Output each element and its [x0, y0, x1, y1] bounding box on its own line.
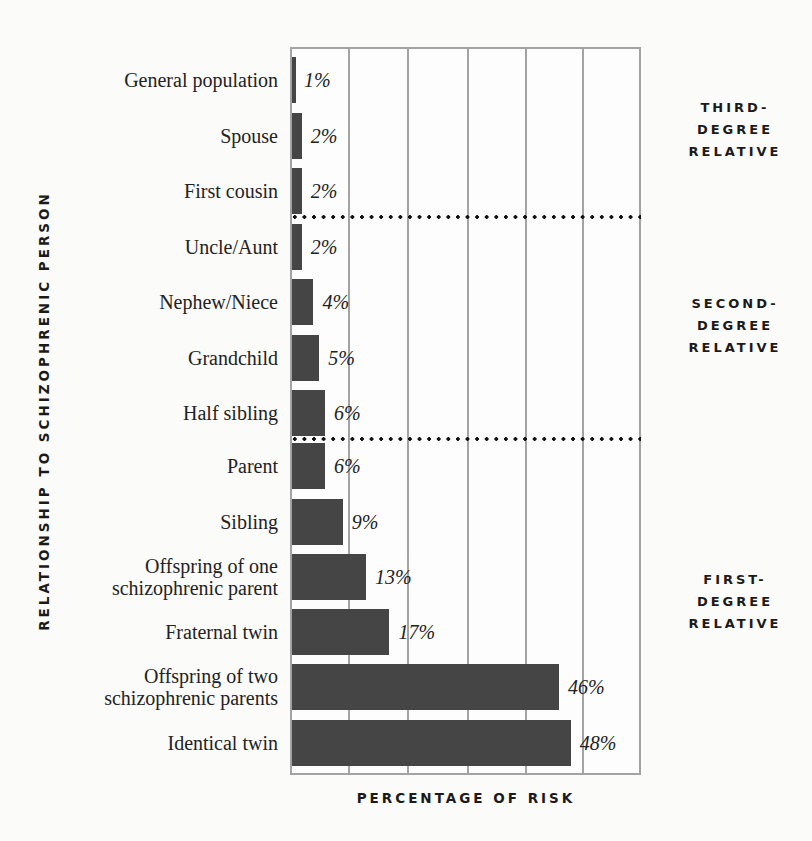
group-label-third-degree: THIRD- DEGREE RELATIVE — [670, 97, 800, 163]
value-label: 13% — [375, 554, 412, 600]
category-label: Parent — [38, 443, 278, 489]
value-label: 1% — [304, 57, 331, 103]
group-label-line: DEGREE — [670, 119, 800, 141]
bar — [292, 224, 302, 270]
group-label-line: RELATIVE — [670, 613, 800, 635]
category-label: Offspring of twoschizophrenic parents — [38, 664, 278, 710]
category-label: Offspring of oneschizophrenic parent — [38, 554, 278, 600]
category-label-line: Offspring of two — [38, 665, 278, 687]
category-label-line: Parent — [38, 455, 278, 477]
group-label-line: DEGREE — [670, 591, 800, 613]
divider-second-first — [290, 437, 641, 441]
group-label-line: DEGREE — [670, 315, 800, 337]
group-label-line: THIRD- — [670, 97, 800, 119]
value-label: 2% — [311, 168, 338, 214]
category-label-line: Half sibling — [38, 402, 278, 424]
divider-third-second — [290, 215, 641, 219]
bar — [292, 720, 571, 766]
bar — [292, 168, 302, 214]
category-label: Nephew/Niece — [38, 279, 278, 325]
group-label-second-degree: SECOND- DEGREE RELATIVE — [670, 293, 800, 359]
group-label-first-degree: FIRST- DEGREE RELATIVE — [670, 569, 800, 635]
bar — [292, 57, 296, 103]
category-label: Spouse — [38, 113, 278, 159]
category-label-line: Uncle/Aunt — [38, 236, 278, 258]
bar — [292, 390, 325, 436]
category-label-line: schizophrenic parent — [38, 577, 278, 599]
value-label: 6% — [334, 390, 361, 436]
category-label: Half sibling — [38, 390, 278, 436]
value-label: 48% — [580, 720, 617, 766]
value-label: 46% — [568, 664, 605, 710]
value-label: 17% — [398, 609, 435, 655]
value-label: 6% — [334, 443, 361, 489]
category-label: Sibling — [38, 499, 278, 545]
category-label-line: Fraternal twin — [38, 621, 278, 643]
category-label-line: Spouse — [38, 125, 278, 147]
bar — [292, 554, 366, 600]
category-label: Uncle/Aunt — [38, 224, 278, 270]
group-label-line: RELATIVE — [670, 141, 800, 163]
value-label: 9% — [352, 499, 379, 545]
bar — [292, 499, 343, 545]
category-label: General population — [38, 57, 278, 103]
value-label: 2% — [311, 224, 338, 270]
category-label: First cousin — [38, 168, 278, 214]
category-label-line: General population — [38, 69, 278, 91]
group-label-line: SECOND- — [670, 293, 800, 315]
bar — [292, 113, 302, 159]
category-label: Grandchild — [38, 335, 278, 381]
category-label-line: First cousin — [38, 180, 278, 202]
y-axis-title: RELATIONSHIP TO SCHIZOPHRENIC PERSON — [36, 191, 52, 631]
bar — [292, 279, 313, 325]
value-label: 2% — [311, 113, 338, 159]
bar — [292, 335, 319, 381]
category-label-line: Nephew/Niece — [38, 291, 278, 313]
category-label-line: Sibling — [38, 511, 278, 533]
category-label-line: Offspring of one — [38, 555, 278, 577]
category-label-line: schizophrenic parents — [38, 687, 278, 709]
category-label: Identical twin — [38, 720, 278, 766]
value-label: 5% — [328, 335, 355, 381]
bar — [292, 609, 389, 655]
category-label: Fraternal twin — [38, 609, 278, 655]
x-axis-title: PERCENTAGE OF RISK — [334, 790, 598, 806]
bar — [292, 664, 559, 710]
bar — [292, 443, 325, 489]
category-label-line: Grandchild — [38, 347, 278, 369]
category-label-line: Identical twin — [38, 732, 278, 754]
group-label-line: FIRST- — [670, 569, 800, 591]
value-label: 4% — [322, 279, 349, 325]
group-label-line: RELATIVE — [670, 337, 800, 359]
